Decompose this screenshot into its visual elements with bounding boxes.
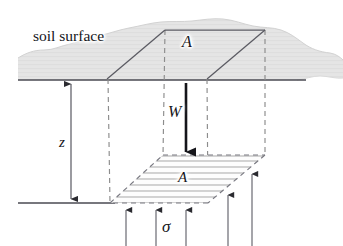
figure-canvas: soil surface A A W z σ — [0, 0, 343, 246]
soil-surface-label: soil surface — [33, 28, 104, 44]
area-label-top: A — [182, 34, 192, 50]
column-edge-front-left — [108, 79, 110, 204]
bottom-face — [100, 155, 318, 203]
weight-label: W — [168, 104, 181, 120]
depth-label: z — [59, 135, 65, 150]
area-label-bottom: A — [178, 170, 187, 185]
stress-label: σ — [162, 218, 170, 235]
